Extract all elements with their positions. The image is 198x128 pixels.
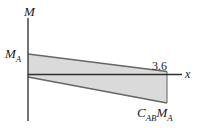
station-value-label: 3.6 — [152, 60, 167, 72]
moment-diagram-figure: M MA 3.6 x CABMA — [0, 0, 198, 128]
vertical-axis-label: M — [24, 5, 35, 18]
carryover-moment-label: CABMA — [137, 106, 173, 122]
carryover-moment-symbol: M — [156, 105, 167, 120]
carryover-subscript: AB — [146, 113, 157, 123]
moment-at-a-label: MA — [5, 47, 21, 63]
carryover-symbol: C — [137, 105, 146, 120]
carryover-moment-subscript: A — [167, 113, 172, 123]
moment-at-a-symbol: M — [5, 46, 16, 61]
moment-at-a-subscript: A — [16, 54, 21, 64]
horizontal-axis-label: x — [185, 68, 190, 80]
